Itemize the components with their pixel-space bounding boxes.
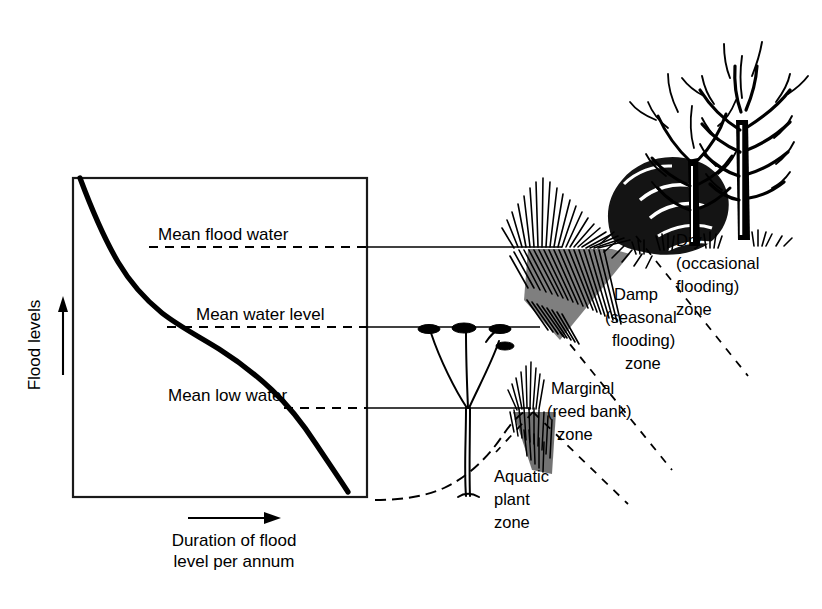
zone-label-marginal: Marginal (reed bank) zone bbox=[547, 379, 631, 443]
zone-aquatic-line-3: zone bbox=[494, 513, 530, 531]
x-axis-arrow bbox=[188, 512, 281, 524]
zone-damp-line-4: zone bbox=[625, 354, 661, 372]
zone-marginal-line-3: zone bbox=[557, 425, 593, 443]
zone-damp-line-3: flooding) bbox=[612, 331, 675, 349]
mean-water-level-label: Mean water level bbox=[196, 305, 325, 324]
zone-dry-line-1: Dry bbox=[676, 231, 702, 249]
x-axis-label-line1: Duration of flood bbox=[172, 531, 297, 550]
zone-damp-line-2: (seasonal bbox=[605, 308, 677, 326]
zone-damp-line-1: Damp bbox=[614, 285, 658, 303]
reed-clump-shading bbox=[513, 412, 556, 474]
y-axis-label: Flood levels bbox=[25, 300, 44, 391]
zone-dry-line-4: zone bbox=[676, 300, 712, 318]
zone-label-dry: Dry (occasional flooding) zone bbox=[676, 231, 759, 318]
zone-aquatic-line-2: plant bbox=[494, 490, 530, 508]
mean-low-water-label: Mean low water bbox=[168, 386, 287, 405]
zone-label-damp: Damp (seasonal flooding) zone bbox=[605, 285, 677, 372]
zone-dry-line-2: (occasional bbox=[676, 254, 759, 272]
x-axis-label-line2: level per annum bbox=[174, 552, 295, 571]
y-axis-arrow bbox=[58, 296, 68, 375]
zone-marginal-line-1: Marginal bbox=[551, 379, 614, 397]
diagram-canvas: Mean flood water Mean water level Mean l… bbox=[0, 0, 822, 609]
leader-line-damp bbox=[560, 332, 672, 470]
river-bed-profile bbox=[375, 408, 531, 500]
zone-dry-line-3: flooding) bbox=[676, 277, 739, 295]
mean-flood-water-label: Mean flood water bbox=[158, 225, 289, 244]
zone-aquatic-line-1: Aquatic bbox=[494, 467, 549, 485]
zone-label-aquatic: Aquatic plant zone bbox=[494, 467, 549, 531]
flood-zone-diagram: Mean flood water Mean water level Mean l… bbox=[0, 0, 822, 609]
zone-marginal-line-2: (reed bank) bbox=[547, 402, 631, 420]
